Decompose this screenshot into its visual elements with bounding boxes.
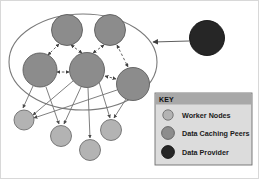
worker-node-mid-right[interactable] bbox=[101, 120, 122, 141]
worker-node-left[interactable] bbox=[14, 110, 34, 130]
peer-node-mid-left[interactable] bbox=[23, 53, 57, 87]
legend-label-worker-nodes: Worker Nodes bbox=[182, 111, 231, 120]
data-caching-peer-swatch bbox=[162, 127, 175, 140]
data-provider-node[interactable] bbox=[190, 21, 225, 56]
legend-title: KEY bbox=[159, 96, 174, 103]
worker-node-bottom[interactable] bbox=[80, 140, 101, 161]
data-provider-swatch bbox=[162, 146, 175, 159]
legend-panel: KEY Worker Nodes Data Caching Peers Data… bbox=[155, 93, 252, 165]
peer-node-top-left[interactable] bbox=[52, 15, 83, 46]
diagram-canvas: KEY Worker Nodes Data Caching Peers Data… bbox=[0, 0, 259, 179]
worker-node-mid-left[interactable] bbox=[51, 126, 72, 147]
peer-node-center[interactable] bbox=[70, 53, 105, 88]
network-diagram: KEY Worker Nodes Data Caching Peers Data… bbox=[0, 0, 259, 179]
legend-label-data-caching-peers: Data Caching Peers bbox=[182, 129, 250, 138]
worker-node-swatch bbox=[163, 110, 173, 120]
peer-node-top-right[interactable] bbox=[95, 15, 126, 46]
peer-node-right[interactable] bbox=[117, 68, 150, 101]
legend-label-data-provider: Data Provider bbox=[182, 148, 229, 157]
